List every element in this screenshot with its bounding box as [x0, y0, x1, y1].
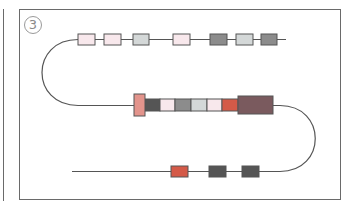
large-block [238, 96, 273, 114]
top-row [78, 34, 277, 45]
segment-box [104, 34, 121, 45]
segment-box [175, 99, 191, 111]
segment-box [133, 34, 149, 45]
segment-box [145, 99, 160, 111]
bottom-row [171, 166, 259, 177]
segment-box [236, 34, 253, 45]
segment-box [160, 99, 175, 111]
segment-box [210, 34, 227, 45]
segment-box [171, 166, 188, 177]
segment-box [222, 99, 238, 111]
segment-box [207, 99, 222, 111]
segment-box [173, 34, 190, 45]
middle-row [134, 94, 273, 116]
segment-box [261, 34, 277, 45]
strand-diagram [0, 0, 357, 212]
segment-box [191, 99, 207, 111]
segment-box [209, 166, 226, 177]
segment-box [242, 166, 259, 177]
segment-box [78, 34, 95, 45]
tall-marker-box [134, 94, 145, 116]
